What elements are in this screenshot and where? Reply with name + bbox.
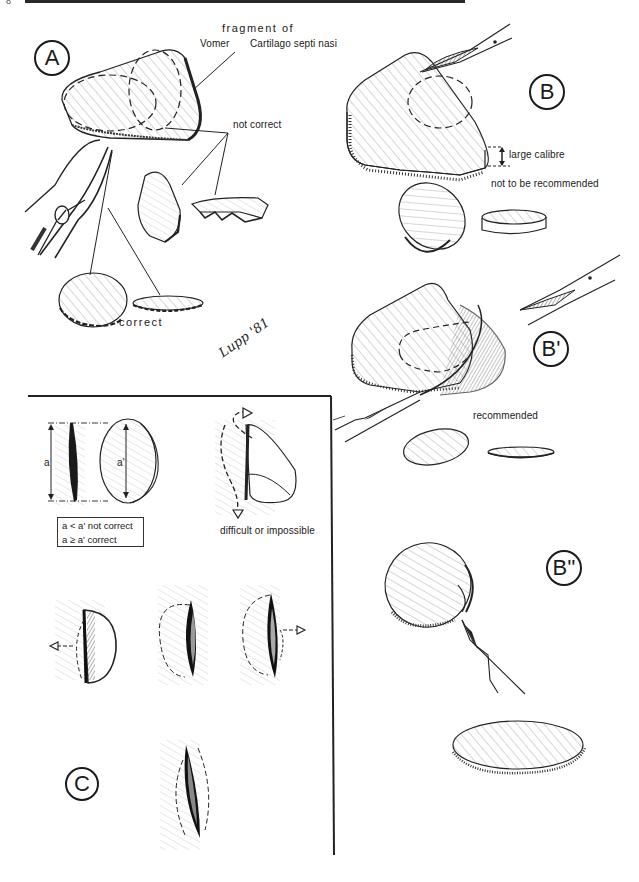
label-cartilago-septi-nasi: Cartilago septi nasi (250, 38, 337, 49)
label-a-prime: a' (117, 457, 125, 468)
label-correct: correct (119, 316, 163, 328)
page-number: 8 (6, 0, 11, 6)
panel-b-prime-drawing (335, 255, 620, 470)
legend-line-not-correct: a < a' not correct (62, 519, 139, 533)
illustration-canvas (0, 0, 639, 882)
label-not-correct: not correct (233, 119, 281, 130)
panel-a-badge: A (34, 40, 70, 76)
label-not-to-be-recommended: not to be recommended (491, 178, 599, 189)
panel-b-label: B (540, 79, 555, 105)
panel-b-prime-label: B' (542, 336, 561, 362)
panel-b-badge: B (529, 74, 565, 110)
panel-c-badge: C (65, 767, 99, 801)
label-fragment-of: fragment of (222, 22, 294, 34)
label-a: a (44, 457, 50, 468)
panel-b-drawing (347, 24, 546, 263)
panel-b-prime-badge: B' (533, 331, 569, 367)
label-recommended: recommended (473, 410, 538, 421)
label-large-calibre: large calibre (509, 149, 565, 160)
panel-b-double-prime-label: B'' (552, 555, 575, 581)
panel-b-double-prime-badge: B'' (546, 550, 582, 586)
legend-line-correct: a ≥ a' correct (62, 533, 139, 547)
measurement-legend-box: a < a' not correct a ≥ a' correct (57, 517, 144, 547)
label-vomer: Vomer (200, 38, 229, 49)
panel-a-drawing (25, 50, 268, 327)
panel-c-label: C (74, 771, 90, 797)
panel-a-label: A (45, 45, 60, 71)
label-difficult-or-impossible: difficult or impossible (220, 525, 315, 536)
